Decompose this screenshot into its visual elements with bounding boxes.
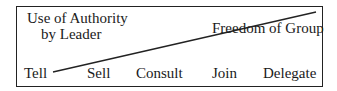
- authority-label-line2: by Leader: [27, 26, 128, 42]
- scale-point-tell: Tell: [24, 65, 47, 82]
- scale-point-consult: Consult: [136, 65, 183, 82]
- scale-point-join: Join: [212, 65, 237, 82]
- scale-point-sell: Sell: [87, 65, 110, 82]
- use-of-authority-label: Use of Authority by Leader: [27, 10, 128, 42]
- freedom-of-group-label: Freedom of Group: [212, 20, 324, 36]
- scale-point-delegate: Delegate: [263, 65, 316, 82]
- authority-label-line1: Use of Authority: [27, 10, 128, 26]
